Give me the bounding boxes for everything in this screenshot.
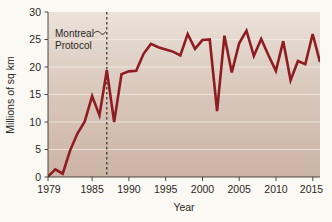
- annotation-montreal-line1: Montreal: [55, 28, 94, 39]
- chart-canvas: Montreal Protocol 0 5 10 15 20 25 30: [0, 0, 332, 222]
- y-axis-title: Millions of sq km: [4, 56, 16, 134]
- y-tick-label-25: 25: [29, 33, 41, 45]
- y-tick-label-15: 15: [29, 88, 41, 100]
- x-tick-label-2000: 2000: [191, 183, 215, 195]
- x-tick-label-1979: 1979: [37, 183, 61, 195]
- y-tick-label-20: 20: [29, 61, 41, 73]
- x-tick-label-2010: 2010: [264, 183, 288, 195]
- y-tick-label-30: 30: [29, 6, 41, 18]
- x-tick-label-2015: 2015: [300, 183, 324, 195]
- y-tick-label-10: 10: [29, 116, 41, 128]
- ozone-hole-line-chart: Montreal Protocol 0 5 10 15 20 25 30: [0, 0, 332, 222]
- x-tick-label-2005: 2005: [228, 183, 252, 195]
- x-tick-label-1985: 1985: [80, 183, 104, 195]
- x-tick-label-1995: 1995: [154, 183, 178, 195]
- x-axis-title: Year: [173, 201, 195, 213]
- x-tick-label-1990: 1990: [117, 183, 141, 195]
- annotation-montreal-line2: Protocol: [55, 40, 92, 51]
- y-tick-label-5: 5: [35, 143, 41, 155]
- y-tick-label-0: 0: [35, 171, 41, 183]
